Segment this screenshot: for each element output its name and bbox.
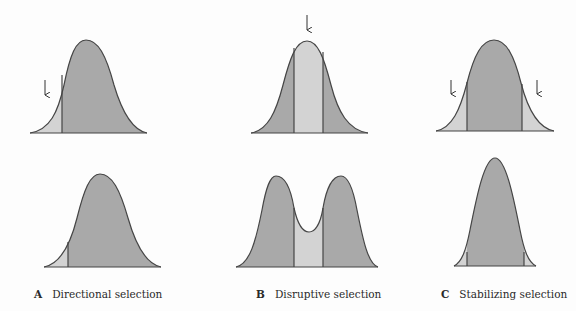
caption-c-letter: C (441, 288, 449, 300)
caption-a: ADirectional selection (34, 288, 162, 300)
panel-b-after-curve (230, 165, 383, 275)
caption-a-letter: A (34, 288, 42, 300)
panel-c-after-curve (450, 150, 540, 270)
caption-b-text: Disruptive selection (275, 288, 381, 300)
panel-b-before-curve (240, 30, 383, 140)
caption-b: BDisruptive selection (256, 288, 381, 300)
panel-a-after-curve (40, 165, 168, 275)
caption-a-text: Directional selection (52, 288, 162, 300)
diagram-graphics (0, 0, 576, 311)
natural-selection-diagram: ADirectional selection BDisruptive selec… (0, 0, 576, 311)
caption-b-letter: B (256, 288, 265, 300)
panel-a-before-curve (20, 30, 162, 140)
caption-c-text: Stabilizing selection (459, 288, 567, 300)
panel-c-before-curve (430, 30, 562, 140)
caption-c: CStabilizing selection (441, 288, 567, 300)
